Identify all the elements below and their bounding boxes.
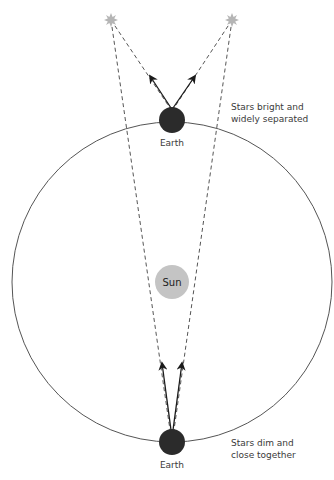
earth-top-icon [159,107,185,133]
sun-label: Sun [162,277,181,288]
earth-bottom-label: Earth [160,460,184,470]
sight-lines [111,20,232,430]
note-bottom-line2: close together [231,450,296,460]
arrow-top-left [150,76,171,108]
note-top-line1: Stars bright and [231,102,304,112]
sight-line-left-to-top-earth [111,20,170,108]
earth-bottom-icon [159,429,185,455]
note-bottom-line1: Stars dim and [231,438,294,448]
arrow-bottom-left [162,363,171,430]
sight-line-left-to-bottom-earth [111,20,170,430]
parallax-diagram: Sun Earth Earth Stars bright and widely … [0,0,334,480]
note-top-line2: widely separated [231,114,308,124]
earth-top-label: Earth [160,138,184,148]
arrow-bottom-right [173,363,182,430]
arrow-top-right [173,76,195,108]
sight-line-right-to-bottom-earth [174,20,232,430]
star-left-icon [104,13,118,27]
star-right-icon [225,13,239,27]
